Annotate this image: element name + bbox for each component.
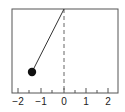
pendulum-diagram: −2 −1 0 1 2	[0, 0, 125, 112]
x-axis-ticks	[18, 88, 108, 93]
plot-frame	[12, 9, 118, 93]
tick-label: −2	[12, 96, 24, 107]
tick-label: 0	[61, 96, 67, 107]
pendulum-rod	[32, 9, 64, 72]
x-axis-tick-labels: −2 −1 0 1 2	[12, 96, 111, 107]
pendulum-bob	[28, 68, 36, 76]
tick-label: −1	[35, 96, 47, 107]
tick-label: 2	[105, 96, 111, 107]
tick-label: 1	[83, 96, 89, 107]
